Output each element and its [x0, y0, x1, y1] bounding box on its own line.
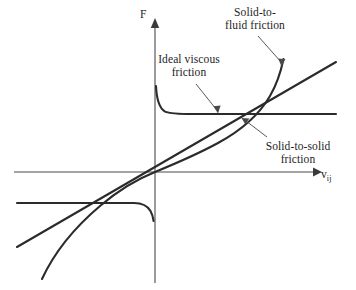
y-axis-label: F — [140, 8, 146, 20]
leader-ideal-viscous — [196, 84, 221, 114]
leader-line-solid-to-solid — [246, 121, 267, 137]
leader-arrowhead-solid-to-fluid — [278, 59, 285, 67]
x-axis-label-subscript: ij — [327, 174, 332, 183]
label-ideal-viscous-line1: Ideal viscous — [158, 53, 220, 65]
label-solid-to-solid-friction: Solid-to-solidfriction — [245, 140, 351, 166]
label-ideal-viscous-line2: friction — [172, 66, 207, 78]
leader-line-ideal-viscous — [196, 84, 216, 109]
x-axis-label: vij — [321, 168, 332, 183]
y-axis-arrowhead — [151, 18, 159, 28]
friction-curves-figure: Solid-to-fluid friction Ideal viscousfri… — [0, 0, 356, 290]
leader-line-solid-to-fluid — [258, 36, 281, 62]
label-solid-to-solid-line2: friction — [281, 153, 316, 165]
curve-solid-to-fluid-positive — [156, 86, 336, 114]
label-solid-to-fluid-line1: Solid-to- — [234, 6, 276, 18]
label-ideal-viscous-friction: Ideal viscousfriction — [130, 53, 248, 79]
leader-arrowhead-ideal-viscous — [213, 106, 220, 114]
label-solid-to-fluid-line2: fluid friction — [225, 19, 285, 31]
leader-solid-to-fluid — [258, 36, 285, 67]
leader-solid-to-solid — [242, 118, 268, 137]
label-solid-to-fluid-friction: Solid-to-fluid friction — [203, 6, 307, 32]
label-solid-to-solid-line1: Solid-to-solid — [266, 140, 331, 152]
curve-solid-to-solid — [42, 59, 284, 279]
